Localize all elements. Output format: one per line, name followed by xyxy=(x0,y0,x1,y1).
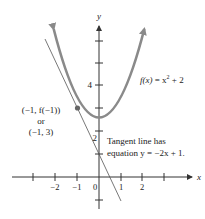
tangency-point xyxy=(75,105,80,110)
x-axis-label: x xyxy=(196,172,201,182)
point-label-1: (−1, f(−1)) xyxy=(22,105,61,115)
x-tick-1: 1 xyxy=(119,182,123,192)
x-axis xyxy=(12,173,192,181)
x-tick-neg1: −1 xyxy=(72,182,81,192)
function-tail: + 2 xyxy=(170,75,184,85)
function-label: f(x) = x2 + 2 xyxy=(140,74,184,85)
x-tick-0: 0 xyxy=(93,182,97,192)
point-label-2: or xyxy=(37,116,45,126)
tangent-label-2: equation y = −2x + 1. xyxy=(107,148,185,158)
function-eq: = x xyxy=(153,75,168,85)
y-tick-4: 4 xyxy=(88,80,93,90)
x-tick-neg2: −2 xyxy=(50,182,59,192)
tangent-line-graph: y x 4 2 −2 −1 0 1 2 f(x) = x2 + 2 (−1, f… xyxy=(0,0,205,219)
point-label-3: (−1, 3) xyxy=(29,127,54,137)
function-name: f(x) xyxy=(140,75,153,85)
y-axis-label: y xyxy=(96,11,101,21)
tangent-label-1: Tangent line has xyxy=(107,136,166,146)
y-tick-2: 2 xyxy=(93,133,98,143)
x-tick-2: 2 xyxy=(140,182,144,192)
